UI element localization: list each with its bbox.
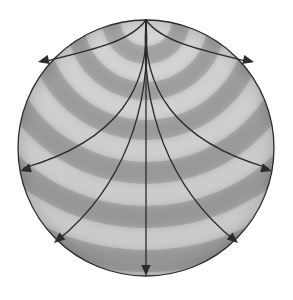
radial-wavefront-disk-diagram: [0, 0, 293, 300]
figure-container: [0, 0, 293, 300]
